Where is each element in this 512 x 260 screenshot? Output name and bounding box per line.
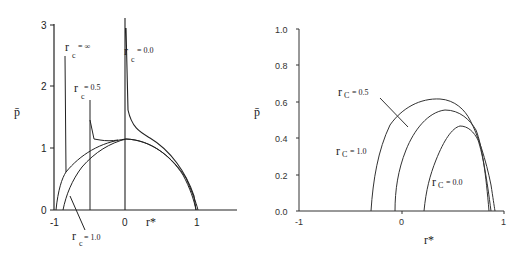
right-curve-rc-1 [371,99,495,211]
left-ann-10-c: c [79,239,83,248]
left-curve-rc-0 [125,18,196,210]
right-ann-10-c: C [342,150,347,159]
left-ann-05-r: r [74,81,78,95]
left-ann-10: = 1.0 [84,233,101,242]
left-y-label: p̄ [14,105,20,119]
right-ytick-08: 0.8 [275,61,288,71]
right-x-label: r* [424,233,434,247]
right-ann-10: = 1.0 [350,147,367,156]
right-xtick-1: 1 [501,217,506,227]
right-ann-00-c: C [438,181,443,190]
right-y-label: p̄ [254,105,260,119]
right-ann-00-r: r [432,175,436,189]
right-ytick-04: 0.4 [275,134,288,144]
left-ann-05-c: c [81,92,85,101]
right-xtick-0: 0 [399,217,404,227]
left-ytick-1: 1 [41,143,47,154]
right-ann-05-c: C [344,91,349,100]
right-ytick-10: 1.0 [275,25,288,35]
right-ann-05: = 0.5 [352,88,369,97]
right-curve-rc-0 [424,126,491,211]
right-ticks [296,29,504,214]
left-ann-05: = 0.5 [84,83,101,92]
left-x-label: r* [146,215,156,229]
left-chart: 3 2 1 0 -1 0 1 r* p̄ r c = ∞ r c = 0.5 r… [14,18,237,248]
left-ann-00-r: r [124,44,128,58]
right-curve-rc-05 [395,110,489,211]
left-ann-10-r: r [72,229,76,243]
left-xtick-neg1: -1 [50,217,59,228]
right-ytick-06: 0.6 [275,98,288,108]
left-curve-rc-inf [56,56,196,210]
right-ytick-00: 0.0 [275,207,288,217]
left-ann-inf-r: r [65,40,69,54]
right-ann-10-r: r [336,144,340,158]
right-rc05-pointer [380,98,408,127]
right-ann-05-r: r [338,85,342,99]
left-ann-inf: = ∞ [78,42,91,51]
right-xtick-neg1: -1 [295,217,303,227]
left-rc1-pointer [70,196,85,230]
left-ytick-0: 0 [41,205,47,216]
right-ytick-02: 0.2 [275,171,288,181]
left-xtick-0: 0 [122,217,128,228]
left-xtick-1: 1 [194,217,200,228]
left-curve-rc-1 [63,139,198,210]
left-ytick-2: 2 [41,81,47,92]
left-ann-00-c: c [131,55,135,64]
left-ytick-3: 3 [41,20,47,31]
left-ann-inf-c: c [72,51,76,60]
right-chart: 1.0 0.8 0.6 0.4 0.2 0.0 -1 0 1 r* p̄ r C… [254,25,506,247]
right-ann-00: = 0.0 [446,178,463,187]
left-ann-00: = 0.0 [137,46,154,55]
figure: 3 2 1 0 -1 0 1 r* p̄ r c = ∞ r c = 0.5 r… [0,0,512,260]
